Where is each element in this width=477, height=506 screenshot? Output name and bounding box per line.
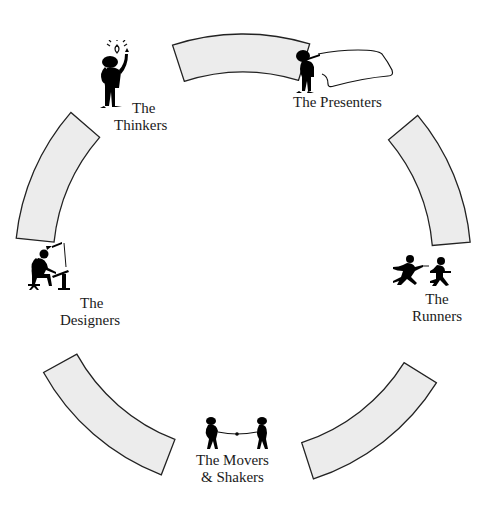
node-label-line1: The (60, 295, 120, 312)
ring-segment-left-lower (44, 354, 175, 475)
node-label-movers-shakers: The Movers & Shakers (196, 452, 269, 486)
cycle-diagram: The Thinkers The Presenters The Runners (0, 0, 477, 506)
node-label-line1: The Presenters (293, 94, 382, 111)
tug-of-war-icon (200, 416, 274, 452)
node-label-line2: Runners (412, 308, 462, 325)
presenter-board-icon (294, 46, 394, 94)
node-label-thinkers: The Thinkers (114, 100, 167, 134)
node-label-line2: Thinkers (114, 117, 167, 134)
node-label-line1: The (412, 291, 462, 308)
node-label-presenters: The Presenters (293, 94, 382, 111)
ring-segment-right-upper (389, 115, 471, 245)
node-label-line2: & Shakers (196, 469, 269, 486)
node-label-runners: The Runners (412, 291, 462, 325)
node-label-designers: The Designers (60, 295, 120, 329)
ring-segment-right-lower (302, 363, 437, 479)
ring-segment-top (173, 34, 310, 81)
node-label-line2: Designers (60, 312, 120, 329)
runners-relay-icon (393, 254, 457, 288)
node-label-line1: The Movers (196, 452, 269, 469)
node-label-line1: The (114, 100, 167, 117)
designer-drafting-table-icon (22, 242, 76, 292)
ring-segment-left-upper (16, 112, 99, 242)
